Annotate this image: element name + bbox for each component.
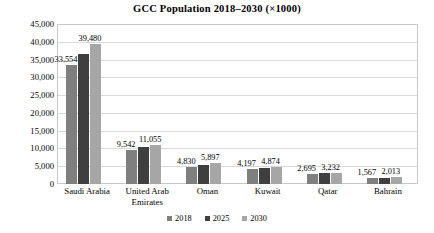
bar-2025-qatar[interactable] — [319, 173, 330, 184]
x-axis-category-label: Oman — [177, 186, 237, 197]
y-axis-tick-label: 45,000 — [0, 20, 54, 29]
bar-group: 2,6953,232 — [298, 24, 358, 184]
bar-value-label: 2,013 — [374, 167, 408, 176]
y-axis-tick-label: 0 — [0, 180, 54, 189]
bar-2025-oman[interactable] — [198, 165, 209, 184]
chart-title: GCC Population 2018–2030 (×1000) — [0, 2, 434, 15]
legend-item-2030[interactable]: 2030 — [242, 214, 267, 223]
x-axis-category-label: Qatar — [298, 186, 358, 197]
bar-2030-bahrain[interactable] — [391, 177, 402, 184]
legend-item-2018[interactable]: 2018 — [167, 214, 192, 223]
legend-swatch-icon — [167, 216, 172, 221]
legend-swatch-icon — [242, 216, 247, 221]
x-axis-label-line: Kuwait — [238, 186, 298, 197]
bar-2030-qatar[interactable] — [331, 173, 342, 184]
x-axis-label-line: Saudi Arabia — [57, 186, 117, 197]
bar-2030-united-arab-emirates[interactable] — [150, 145, 161, 184]
bar-group: 33,55439,480 — [57, 24, 117, 184]
x-axis-label-line: United Arab — [117, 186, 177, 197]
x-axis-label-line: Bahrain — [358, 186, 418, 197]
y-axis-tick-label: 30,000 — [0, 73, 54, 82]
x-axis-label-line: Oman — [177, 186, 237, 197]
bars-layer: 33,55439,4809,54211,0554,8305,8974,1974,… — [57, 24, 418, 184]
legend-swatch-icon — [205, 216, 210, 221]
bar-group: 4,8305,897 — [177, 24, 237, 184]
y-axis-tick-label: 25,000 — [0, 91, 54, 100]
bar-2025-united-arab-emirates[interactable] — [138, 147, 149, 184]
chart-figure: GCC Population 2018–2030 (×1000) 05,0001… — [0, 0, 434, 233]
bar-2018-united-arab-emirates[interactable] — [126, 150, 137, 184]
bar-2030-oman[interactable] — [210, 163, 221, 184]
x-axis-category-label: Kuwait — [238, 186, 298, 197]
bar-value-label: 5,897 — [193, 153, 227, 162]
x-axis-category-label: Bahrain — [358, 186, 418, 197]
bar-2018-bahrain[interactable] — [367, 178, 378, 184]
y-axis-tick-label: 15,000 — [0, 126, 54, 135]
y-axis-tick-label: 40,000 — [0, 37, 54, 46]
legend-item-2025[interactable]: 2025 — [205, 214, 230, 223]
bar-value-label: 39,480 — [73, 34, 107, 43]
bar-2030-saudi-arabia[interactable] — [90, 44, 101, 184]
chart-legend: 201820252030 — [0, 214, 434, 223]
bar-value-label: 4,874 — [254, 157, 288, 166]
x-axis-category-label: United ArabEmirates — [117, 186, 177, 207]
bar-2025-saudi-arabia[interactable] — [78, 54, 89, 184]
bar-value-label: 11,055 — [133, 135, 167, 144]
bar-group: 1,5672,013 — [358, 24, 418, 184]
bar-2018-saudi-arabia[interactable] — [66, 65, 77, 184]
y-axis-tick-label: 5,000 — [0, 162, 54, 171]
bar-group: 9,54211,055 — [117, 24, 177, 184]
y-axis-tick-label: 10,000 — [0, 144, 54, 153]
x-axis: Saudi ArabiaUnited ArabEmiratesOmanKuwai… — [57, 186, 418, 212]
legend-label: 2018 — [175, 214, 192, 223]
bar-2018-kuwait[interactable] — [247, 169, 258, 184]
bar-2030-kuwait[interactable] — [271, 167, 282, 184]
bar-2025-kuwait[interactable] — [259, 168, 270, 184]
legend-label: 2025 — [213, 214, 230, 223]
bar-group: 4,1974,874 — [238, 24, 298, 184]
bar-2025-bahrain[interactable] — [379, 178, 390, 184]
x-axis-category-label: Saudi Arabia — [57, 186, 117, 197]
legend-label: 2030 — [250, 214, 267, 223]
y-axis-tick-label: 35,000 — [0, 55, 54, 64]
y-axis-tick-label: 20,000 — [0, 108, 54, 117]
bar-2018-oman[interactable] — [186, 167, 197, 184]
bar-2018-qatar[interactable] — [307, 174, 318, 184]
x-axis-label-line: Qatar — [298, 186, 358, 197]
x-axis-label-line: Emirates — [117, 197, 177, 208]
bar-value-label: 3,232 — [314, 163, 348, 172]
y-axis: 05,00010,00015,00020,00025,00030,00035,0… — [0, 24, 54, 184]
